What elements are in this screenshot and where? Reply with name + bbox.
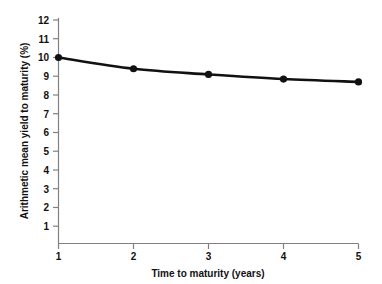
y-tick-label-2: 2 [43,202,49,213]
x-tick-label-4: 4 [281,251,287,262]
y-tick-label-12: 12 [38,15,50,26]
y-tick-label-5: 5 [43,146,49,157]
data-point-1 [55,54,62,61]
line-chart: 12 11 10 9 8 7 6 5 4 3 2 1 1 2 3 4 5 [0,0,382,284]
x-tick-label-5: 5 [356,251,362,262]
data-point-2 [130,65,137,72]
x-tick-label-3: 3 [206,251,212,262]
y-tick-label-11: 11 [38,34,49,45]
y-tick-label-3: 3 [43,184,49,195]
x-axis-title: Time to maturity (years) [151,268,264,279]
y-tick-label-9: 9 [43,71,49,82]
x-tick-label-2: 2 [131,251,137,262]
data-point-4 [280,75,287,82]
data-point-3 [205,71,212,78]
y-tick-label-6: 6 [43,127,49,138]
y-tick-label-7: 7 [43,109,49,120]
y-axis-title: Arithmetic mean yield to maturity (%) [19,43,30,220]
x-tick-label-1: 1 [56,251,62,262]
y-tick-label-1: 1 [43,221,49,232]
data-point-5 [355,78,362,85]
chart-background [0,0,382,284]
y-tick-label-4: 4 [43,165,49,176]
y-tick-label-10: 10 [38,52,50,63]
y-tick-label-8: 8 [43,90,49,101]
chart-figure: 12 11 10 9 8 7 6 5 4 3 2 1 1 2 3 4 5 [0,0,382,284]
